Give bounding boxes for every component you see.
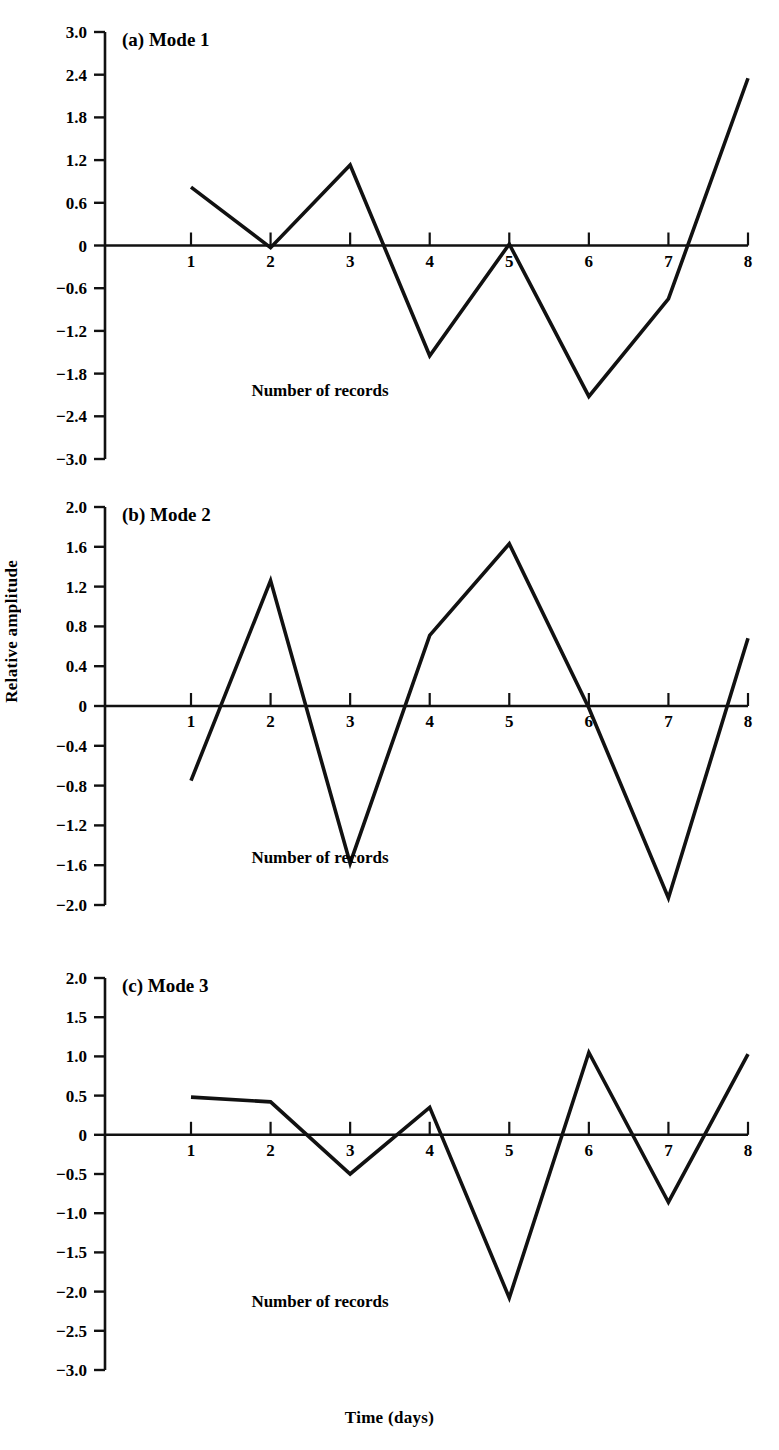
plot-area: 2.01.51.00.50−0.5−1.0−1.5−2.0−2.5−3.0123… (56, 969, 752, 1380)
y-tick-label: −0.5 (56, 1165, 87, 1184)
x-tick-label: 5 (505, 712, 514, 731)
y-tick-label: 2.4 (66, 66, 88, 85)
x-tick-label: 1 (187, 252, 196, 271)
x-tick-label: 4 (425, 712, 434, 731)
y-tick-label: −1.8 (56, 365, 87, 384)
y-tick-label: −1.5 (56, 1243, 87, 1262)
x-tick-label: 4 (425, 252, 434, 271)
y-tick-label: −1.0 (56, 1204, 87, 1223)
y-tick-label: 1.8 (66, 108, 87, 127)
chart-panel-mode-1: 3.02.41.81.20.60−0.6−1.2−1.8−2.4−3.01234… (0, 0, 779, 480)
x-tick-label: 3 (346, 1141, 355, 1160)
y-tick-label: 0 (79, 1126, 88, 1145)
y-tick-label: 1.6 (66, 538, 87, 557)
y-tick-label: 1.2 (66, 578, 87, 597)
x-tick-label: 5 (505, 252, 514, 271)
y-tick-label: 0.4 (66, 657, 88, 676)
x-tick-label: 7 (664, 1141, 673, 1160)
y-tick-label: −2.5 (56, 1322, 87, 1341)
x-tick-label: 6 (585, 252, 594, 271)
chart-panel-mode-2: 2.01.61.20.80.40−0.4−0.8−1.2−1.6−2.01234… (0, 480, 779, 920)
y-axis-label: Relative amplitude (2, 560, 42, 703)
y-tick-label: −0.4 (56, 737, 87, 756)
y-tick-label: 1.5 (66, 1008, 87, 1027)
x-tick-label: 2 (266, 712, 275, 731)
y-tick-label: −1.6 (56, 856, 87, 875)
y-tick-label: −1.2 (56, 322, 87, 341)
chart-svg-c: 2.01.51.00.50−0.5−1.0−1.5−2.0−2.5−3.0123… (0, 920, 779, 1410)
y-tick-label: 1.0 (66, 1047, 87, 1066)
y-tick-label: 1.2 (66, 151, 87, 170)
data-series-line (191, 1052, 748, 1297)
x-tick-label: 3 (346, 252, 355, 271)
plot-area: 3.02.41.81.20.60−0.6−1.2−1.8−2.4−3.01234… (56, 23, 752, 469)
y-tick-label: −2.0 (56, 896, 87, 915)
panel-title: (b) Mode 2 (122, 504, 211, 526)
x-tick-label: 8 (744, 252, 753, 271)
inner-x-label: Number of records (251, 381, 389, 400)
x-tick-label: 5 (505, 1141, 514, 1160)
x-tick-label: 7 (664, 252, 673, 271)
x-tick-label: 6 (585, 1141, 594, 1160)
x-axis-label: Time (days) (0, 1408, 779, 1428)
x-tick-label: 8 (744, 712, 753, 731)
inner-x-label: Number of records (251, 848, 389, 867)
data-series-line (191, 78, 748, 396)
figure-container: 3.02.41.81.20.60−0.6−1.2−1.8−2.4−3.01234… (0, 0, 779, 1450)
inner-x-label: Number of records (251, 1292, 389, 1311)
y-tick-label: −3.0 (56, 450, 87, 469)
y-tick-label: −1.2 (56, 816, 87, 835)
x-tick-label: 3 (346, 712, 355, 731)
y-tick-label: 2.0 (66, 498, 87, 517)
chart-panel-mode-3: 2.01.51.00.50−0.5−1.0−1.5−2.0−2.5−3.0123… (0, 920, 779, 1410)
y-tick-label: −2.4 (56, 407, 87, 426)
y-tick-label: 3.0 (66, 23, 87, 42)
x-tick-label: 2 (266, 1141, 275, 1160)
y-tick-label: −3.0 (56, 1361, 87, 1380)
y-tick-label: −2.0 (56, 1283, 87, 1302)
y-tick-label: −0.8 (56, 777, 87, 796)
y-tick-label: 0.8 (66, 617, 87, 636)
x-tick-label: 1 (187, 712, 196, 731)
y-tick-label: 2.0 (66, 969, 87, 988)
panel-title: (c) Mode 3 (122, 975, 209, 997)
chart-svg-b: 2.01.61.20.80.40−0.4−0.8−1.2−1.6−2.01234… (0, 480, 779, 920)
y-tick-label: −0.6 (56, 279, 87, 298)
panel-title: (a) Mode 1 (122, 29, 210, 51)
x-tick-label: 7 (664, 712, 673, 731)
y-tick-label: 0 (79, 237, 88, 256)
plot-area: 2.01.61.20.80.40−0.4−0.8−1.2−1.6−2.01234… (56, 498, 752, 915)
y-tick-label: 0 (79, 697, 88, 716)
y-tick-label: 0.5 (66, 1087, 87, 1106)
x-tick-label: 2 (266, 252, 275, 271)
x-tick-label: 4 (425, 1141, 434, 1160)
x-tick-label: 8 (744, 1141, 753, 1160)
y-tick-label: 0.6 (66, 194, 87, 213)
x-tick-label: 1 (187, 1141, 196, 1160)
chart-svg-a: 3.02.41.81.20.60−0.6−1.2−1.8−2.4−3.01234… (0, 0, 779, 480)
